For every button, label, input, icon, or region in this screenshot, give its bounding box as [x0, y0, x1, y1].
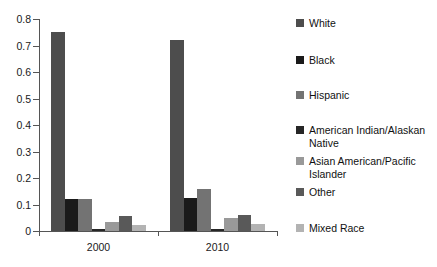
legend-label: Black	[309, 54, 335, 67]
legend-label: White	[309, 17, 336, 30]
legend-label: Asian American/Pacific Islander	[309, 155, 437, 180]
y-tick-label-text: 0.6	[0, 67, 31, 77]
bar	[51, 32, 65, 231]
y-tick-mark	[33, 99, 39, 100]
legend-swatch-icon	[296, 126, 304, 134]
y-tick-mark	[33, 178, 39, 179]
y-tick-label-text: 0.5	[0, 94, 31, 104]
legend-swatch-icon	[296, 19, 304, 27]
y-tick-label-text: 0.2	[0, 173, 31, 183]
y-tick-mark	[33, 19, 39, 20]
y-tick-label: 0	[0, 226, 31, 236]
legend-item[interactable]: Hispanic	[296, 89, 437, 102]
legend-swatch-icon	[296, 91, 304, 99]
bar	[105, 222, 119, 231]
bar	[197, 189, 211, 231]
y-tick-mark	[33, 72, 39, 73]
y-tick-label-text: 0.3	[0, 147, 31, 157]
y-tick-mark	[33, 152, 39, 153]
y-tick-label: 0.7	[0, 41, 31, 51]
bar	[170, 40, 184, 231]
legend-label: Hispanic	[309, 89, 349, 102]
chart-legend: WhiteBlackHispanicAmerican Indian/Alaska…	[296, 0, 437, 267]
bar	[78, 199, 92, 231]
bar	[65, 199, 79, 231]
y-axis-line	[39, 19, 40, 232]
legend-label: Mixed Race	[309, 222, 364, 235]
x-tick-label: 2010	[188, 241, 248, 253]
y-tick-mark	[33, 125, 39, 126]
legend-swatch-icon	[296, 157, 304, 165]
y-tick-mark	[33, 205, 39, 206]
legend-label: Other	[309, 186, 335, 199]
x-tick-mark	[158, 231, 159, 236]
bar	[238, 215, 252, 231]
bar	[251, 224, 265, 231]
y-tick-label-text: 0.7	[0, 41, 31, 51]
legend-swatch-icon	[296, 188, 304, 196]
y-tick-label-text: 0.8	[0, 14, 31, 24]
bar	[184, 198, 198, 231]
y-tick-label: 0.3	[0, 147, 31, 157]
legend-label: American Indian/Alaskan Native	[309, 124, 437, 149]
y-tick-label-text: 0.4	[0, 120, 31, 130]
legend-item[interactable]: American Indian/Alaskan Native	[296, 124, 437, 149]
x-tick-mark	[39, 231, 40, 236]
bar	[119, 216, 133, 231]
y-tick-label: 0.1	[0, 200, 31, 210]
legend-item[interactable]: Asian American/Pacific Islander	[296, 155, 437, 180]
x-tick-label: 2000	[69, 241, 129, 253]
plot-area: 00.10.20.30.40.50.60.70.8 20002010	[0, 0, 285, 267]
bar	[92, 229, 106, 231]
legend-item[interactable]: Mixed Race	[296, 222, 437, 235]
legend-item[interactable]: Other	[296, 186, 437, 199]
x-tick-mark	[277, 231, 278, 236]
legend-swatch-icon	[296, 224, 304, 232]
y-tick-label: 0.4	[0, 120, 31, 130]
bar-chart: 00.10.20.30.40.50.60.70.8 20002010 White…	[0, 0, 437, 267]
bar	[224, 218, 238, 231]
bar	[132, 225, 146, 231]
y-tick-label: 0.2	[0, 173, 31, 183]
y-tick-label: 0.6	[0, 67, 31, 77]
legend-item[interactable]: White	[296, 17, 437, 30]
y-tick-label-text: 0	[0, 226, 31, 236]
y-tick-label: 0.8	[0, 14, 31, 24]
bar	[211, 229, 225, 231]
y-tick-mark	[33, 46, 39, 47]
legend-swatch-icon	[296, 56, 304, 64]
y-tick-label: 0.5	[0, 94, 31, 104]
y-tick-label-text: 0.1	[0, 200, 31, 210]
legend-item[interactable]: Black	[296, 54, 437, 67]
